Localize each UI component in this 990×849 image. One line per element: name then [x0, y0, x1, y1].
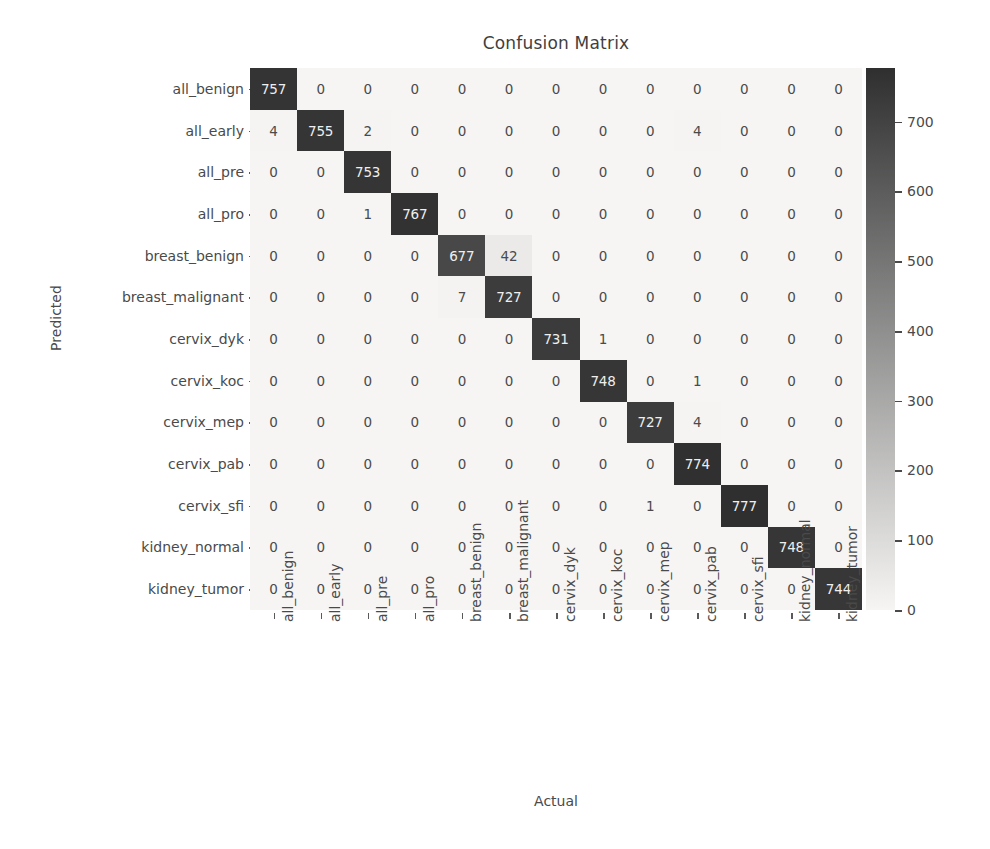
- matrix-cell: 0: [815, 193, 862, 235]
- matrix-cell: 0: [250, 235, 297, 277]
- matrix-cell: 0: [250, 151, 297, 193]
- matrix-cell: 0: [721, 68, 768, 110]
- matrix-cell: 0: [674, 151, 721, 193]
- y-tick-label: all_pro: [14, 205, 244, 223]
- matrix-cell: 0: [297, 276, 344, 318]
- colorbar-gradient: [866, 68, 895, 610]
- matrix-cell: 0: [721, 193, 768, 235]
- matrix-cell: 0: [815, 318, 862, 360]
- matrix-cell: 677: [438, 235, 485, 277]
- matrix-cell: 0: [438, 360, 485, 402]
- y-tick-label: kidney_normal: [14, 538, 244, 556]
- y-tick-label: kidney_tumor: [14, 580, 244, 598]
- y-tick-label: all_pre: [14, 163, 244, 181]
- matrix-cell: 0: [768, 110, 815, 152]
- matrix-cell: 0: [391, 318, 438, 360]
- matrix-cell: 0: [250, 318, 297, 360]
- matrix-cell: 0: [815, 151, 862, 193]
- matrix-cell: 0: [344, 527, 391, 569]
- matrix-cell: 0: [532, 193, 579, 235]
- matrix-cell: 0: [580, 276, 627, 318]
- x-tick-mark: [462, 613, 464, 619]
- matrix-cell: 0: [815, 360, 862, 402]
- matrix-cell: 0: [721, 443, 768, 485]
- matrix-cell: 0: [344, 402, 391, 444]
- matrix-cell: 0: [815, 68, 862, 110]
- matrix-cell: 0: [297, 193, 344, 235]
- matrix-cell: 0: [532, 402, 579, 444]
- matrix-cell: 0: [297, 402, 344, 444]
- matrix-cell: 0: [580, 110, 627, 152]
- matrix-cell: 0: [674, 193, 721, 235]
- matrix-cell: 0: [627, 276, 674, 318]
- matrix-cell: 0: [627, 360, 674, 402]
- matrix-cell: 0: [532, 360, 579, 402]
- matrix-cell: 0: [532, 151, 579, 193]
- x-tick-label: cervix_sfi: [750, 556, 766, 622]
- matrix-cell: 0: [391, 68, 438, 110]
- matrix-cell: 4: [674, 110, 721, 152]
- y-axis-tick-labels: all_benignall_earlyall_preall_probreast_…: [6, 68, 244, 610]
- matrix-cell: 0: [438, 402, 485, 444]
- x-tick-mark: [368, 613, 370, 619]
- x-tick-label: all_benign: [280, 551, 296, 622]
- matrix-cell: 0: [485, 443, 532, 485]
- matrix-cell: 731: [532, 318, 579, 360]
- colorbar-tick-label: 600: [907, 182, 934, 200]
- matrix-cell: 0: [627, 318, 674, 360]
- page-title: Confusion Matrix: [250, 33, 862, 53]
- x-tick-label: breast_malignant: [515, 500, 531, 622]
- matrix-cell: 0: [627, 193, 674, 235]
- matrix-cell: 7: [438, 276, 485, 318]
- matrix-cell: 0: [721, 276, 768, 318]
- matrix-cell: 0: [250, 443, 297, 485]
- y-tick-label: cervix_pab: [14, 455, 244, 473]
- y-tick-label: cervix_koc: [14, 372, 244, 390]
- matrix-cell: 0: [438, 151, 485, 193]
- matrix-cell: 0: [250, 485, 297, 527]
- colorbar-tick-mark: [895, 401, 902, 403]
- matrix-cell: 0: [532, 110, 579, 152]
- matrix-cell: 1: [627, 485, 674, 527]
- matrix-cell: 0: [768, 360, 815, 402]
- colorbar-tick-label: 200: [907, 461, 934, 479]
- x-axis-label: Actual: [250, 793, 862, 809]
- matrix-cell: 0: [391, 402, 438, 444]
- matrix-cell: 748: [580, 360, 627, 402]
- matrix-cell: 0: [627, 443, 674, 485]
- x-tick-mark: [603, 613, 605, 619]
- x-tick-label: all_pre: [374, 576, 390, 622]
- matrix-cell: 0: [250, 276, 297, 318]
- colorbar: 0100200300400500600700: [866, 68, 895, 610]
- x-tick-mark: [650, 613, 652, 619]
- matrix-cell: 0: [627, 235, 674, 277]
- matrix-cell: 0: [344, 318, 391, 360]
- x-tick-label: all_pro: [421, 576, 437, 622]
- x-tick-mark: [556, 613, 558, 619]
- y-tick-label: breast_malignant: [14, 288, 244, 306]
- matrix-cell: 0: [580, 443, 627, 485]
- matrix-cell: 0: [344, 68, 391, 110]
- matrix-cell: 0: [297, 485, 344, 527]
- matrix-cell: 0: [391, 276, 438, 318]
- matrix-cell: 0: [344, 235, 391, 277]
- matrix-cell: 0: [674, 318, 721, 360]
- matrix-cell: 777: [721, 485, 768, 527]
- x-tick-mark: [274, 613, 276, 619]
- x-tick-label: cervix_pab: [703, 546, 719, 622]
- matrix-cell: 0: [391, 527, 438, 569]
- matrix-cell: 0: [768, 193, 815, 235]
- matrix-cell: 0: [580, 485, 627, 527]
- matrix-cell: 0: [627, 68, 674, 110]
- matrix-cell: 0: [532, 276, 579, 318]
- matrix-cell: 755: [297, 110, 344, 152]
- matrix-cell: 0: [721, 360, 768, 402]
- matrix-cell: 42: [485, 235, 532, 277]
- matrix-cell: 0: [344, 276, 391, 318]
- matrix-cell: 0: [485, 318, 532, 360]
- matrix-cell: 0: [721, 151, 768, 193]
- x-tick-label: kidney_normal: [797, 519, 813, 622]
- matrix-cell: 0: [627, 110, 674, 152]
- matrix-cell: 1: [344, 193, 391, 235]
- matrix-cell: 0: [297, 151, 344, 193]
